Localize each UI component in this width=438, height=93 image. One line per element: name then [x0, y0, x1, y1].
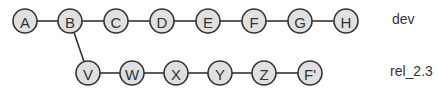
commit-label: C: [111, 14, 122, 31]
commit-label: G: [294, 14, 306, 31]
commit-label: V: [83, 66, 93, 83]
commit-label: W: [125, 66, 140, 83]
commit-label: A: [20, 14, 30, 31]
commit-node: F: [242, 9, 266, 33]
commit-label: F: [249, 14, 258, 31]
commit-label: F': [304, 66, 316, 83]
commit-label: D: [157, 14, 168, 31]
commit-label: Y: [215, 66, 225, 83]
commit-node: Y: [208, 61, 232, 85]
commit-node: X: [164, 61, 188, 85]
commit-node: F': [298, 61, 322, 85]
commit-node: A: [13, 9, 37, 33]
branch-label: dev: [392, 11, 415, 27]
commit-graph: ABCDEFGHVWXYZF': [0, 0, 438, 93]
commit-label: B: [65, 14, 75, 31]
commit-node: C: [104, 9, 128, 33]
commit-node: H: [334, 9, 358, 33]
commit-node: W: [120, 61, 144, 85]
commit-node: E: [196, 9, 220, 33]
branch-label: rel_2.3: [390, 63, 433, 79]
commit-node: V: [76, 61, 100, 85]
commit-node: G: [288, 9, 312, 33]
commit-node: Z: [252, 61, 276, 85]
commit-node: D: [150, 9, 174, 33]
commit-label: H: [341, 14, 352, 31]
commit-label: E: [203, 14, 213, 31]
commit-edge: [74, 32, 84, 61]
commit-node: B: [58, 9, 82, 33]
commit-label: X: [171, 66, 181, 83]
commit-label: Z: [259, 66, 268, 83]
